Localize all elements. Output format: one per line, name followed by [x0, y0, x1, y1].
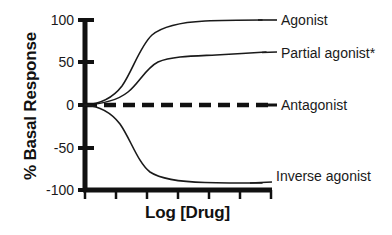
series-label-antagonist: Antagonist [281, 97, 347, 113]
series-curve-agonist [85, 20, 262, 105]
chart-figure: 100 50 0 -50 -100 Agonist Partial agonis… [0, 0, 392, 235]
leader-line-partial-agonist [262, 52, 277, 53]
series-curve-inverse-agonist [85, 105, 262, 183]
series-label-agonist: Agonist [281, 12, 328, 28]
leader-line-inverse-agonist [250, 182, 272, 183]
series-label-partial-agonist: Partial agonist* [281, 45, 375, 61]
chart-plot-area [0, 0, 392, 235]
series-curve-partial-agonist [85, 52, 266, 105]
x-axis-title: Log [Drug] [95, 203, 280, 223]
y-axis-title: % Basal Response [21, 11, 41, 201]
series-label-inverse-agonist: Inverse agonist [276, 168, 371, 184]
